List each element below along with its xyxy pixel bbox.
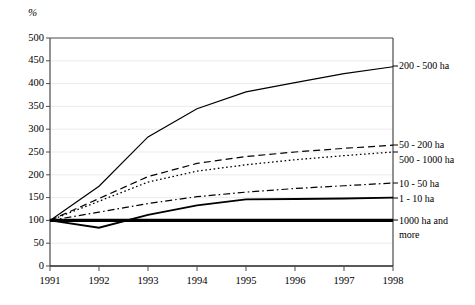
legend-label-500-1000-ha: 500 - 1000 ha bbox=[399, 154, 454, 166]
legend-label-10-50-ha: 10 - 50 ha bbox=[399, 178, 439, 190]
series-line-1 bbox=[50, 145, 393, 220]
data-series-group bbox=[50, 67, 393, 228]
legend-label-200-500-ha: 200 - 500 ha bbox=[399, 60, 449, 72]
legend-label-1000-ha-more-line1: 1000 ha and bbox=[399, 215, 448, 227]
gridlines bbox=[50, 61, 393, 243]
legend-label-50-200-ha: 50 - 200 ha bbox=[399, 139, 444, 151]
x-axis-ticks bbox=[50, 266, 393, 271]
legend-leader-lines bbox=[393, 66, 398, 220]
legend-label-1-10-ha: 1 - 10 ha bbox=[399, 193, 434, 205]
chart-container: % 500 450 400 350 300 250 200 150 100 50… bbox=[0, 0, 475, 305]
series-line-4 bbox=[50, 198, 393, 228]
plot-area bbox=[0, 0, 475, 305]
legend-label-1000-ha-more-line2: more bbox=[399, 229, 420, 241]
